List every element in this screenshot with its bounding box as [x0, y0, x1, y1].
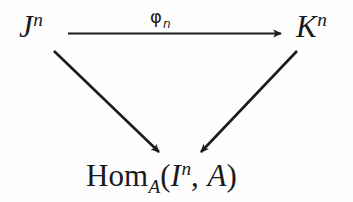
node-target-superscript: n — [317, 9, 327, 30]
hom-comma: , — [191, 158, 199, 193]
right-diagonal-arrow — [201, 51, 297, 152]
hom-arg-base: I — [171, 158, 181, 193]
hom-open-paren: ( — [160, 158, 170, 193]
phi-subscript: n — [163, 17, 171, 31]
node-target-K: Kn — [296, 11, 327, 42]
hom-close-paren: ) — [226, 158, 236, 193]
phi-symbol: φ — [150, 6, 162, 27]
hom-subscript: A — [149, 176, 161, 197]
commutative-diagram: Jn φn Kn HomA(In, A) — [0, 0, 353, 202]
hom-arg-superscript: n — [181, 158, 191, 179]
node-bottom-hom: HomA(In, A) — [86, 160, 237, 191]
node-source-base: J — [19, 9, 33, 44]
hom-functor: Hom — [86, 158, 148, 193]
node-source-J: Jn — [19, 11, 43, 42]
hom-second-arg: A — [208, 158, 227, 193]
arrow-label-phi: φn — [150, 6, 170, 27]
node-source-superscript: n — [33, 9, 43, 30]
left-diagonal-arrow — [54, 51, 159, 152]
node-target-base: K — [296, 9, 317, 44]
